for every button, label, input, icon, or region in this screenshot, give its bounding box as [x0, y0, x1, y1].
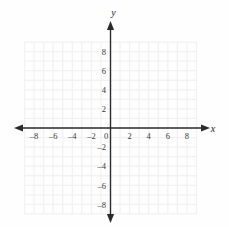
y-tick-label: 6 — [102, 66, 106, 76]
x-tick-label: –4 — [67, 131, 77, 141]
y-tick-label: –4 — [97, 161, 107, 171]
y-tick-label: 2 — [102, 104, 106, 114]
y-tick-label: –8 — [97, 200, 107, 210]
x-tick-label: 4 — [147, 131, 152, 141]
y-axis-name-label: y — [110, 7, 116, 18]
coordinate-plane-figure: –8–6–4–202468 8642–2–4–6–8 x y — [0, 0, 229, 227]
x-tick-label: –2 — [86, 131, 96, 141]
x-tick-label: 6 — [166, 131, 170, 141]
coordinate-plane-svg: –8–6–4–202468 8642–2–4–6–8 x y — [0, 0, 229, 227]
x-tick-label: 0 — [104, 131, 108, 141]
x-tick-label: –8 — [29, 131, 39, 141]
y-tick-label: 8 — [102, 47, 106, 57]
x-tick-label: –6 — [48, 131, 58, 141]
y-tick-label: –6 — [97, 181, 107, 191]
y-tick-label: –2 — [97, 142, 107, 152]
x-axis-name-label: x — [210, 123, 216, 134]
x-tick-label: 2 — [127, 131, 131, 141]
x-tick-label: 8 — [185, 131, 189, 141]
